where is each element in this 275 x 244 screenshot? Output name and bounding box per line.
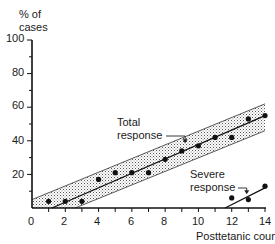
- x-tick-label-6: 6: [128, 215, 134, 227]
- band-lower-edge: [75, 131, 265, 208]
- total-data-point: [163, 157, 168, 162]
- total-data-point: [63, 199, 68, 204]
- severe-data-point: [262, 184, 267, 189]
- total-data-point: [46, 199, 51, 204]
- y-tick-label-100: 100: [6, 32, 24, 44]
- x-tick-label-8: 8: [161, 215, 167, 227]
- y-tick-label-40: 40: [12, 134, 24, 146]
- total-data-point: [146, 170, 151, 175]
- total-data-point: [113, 170, 118, 175]
- severe-data-point: [229, 195, 234, 200]
- annotation-severe-line2: response: [190, 181, 235, 193]
- total-data-point: [229, 135, 234, 140]
- x-tick-label-0: 0: [28, 215, 34, 227]
- y-tick-label-80: 80: [12, 66, 24, 78]
- x-tick-label-12: 12: [226, 215, 238, 227]
- y-tick-label-20: 20: [12, 168, 24, 180]
- total-data-point: [79, 199, 84, 204]
- annotation-severe-line1: Severe: [190, 168, 225, 180]
- annotation-total-line1: Total: [117, 116, 140, 128]
- arrow-down-icon: [244, 190, 249, 194]
- x-axis-label: Posttetanic count: [196, 230, 275, 242]
- total-data-point: [262, 113, 267, 118]
- severe-data-point: [246, 197, 251, 202]
- annotation-total-line2: response: [117, 129, 162, 141]
- x-tick-label-14: 14: [259, 215, 271, 227]
- total-data-point: [179, 148, 184, 153]
- total-data-point: [196, 143, 201, 148]
- y-tick-label-60: 60: [12, 99, 24, 111]
- total-data-point: [246, 116, 251, 121]
- x-tick-label-2: 2: [61, 215, 67, 227]
- total-data-point: [212, 135, 217, 140]
- total-data-point: [129, 170, 134, 175]
- y-axis-label-line1: % of: [19, 8, 41, 20]
- x-tick-label-4: 4: [94, 215, 100, 227]
- x-tick-label-10: 10: [192, 215, 204, 227]
- total-data-point: [96, 177, 101, 182]
